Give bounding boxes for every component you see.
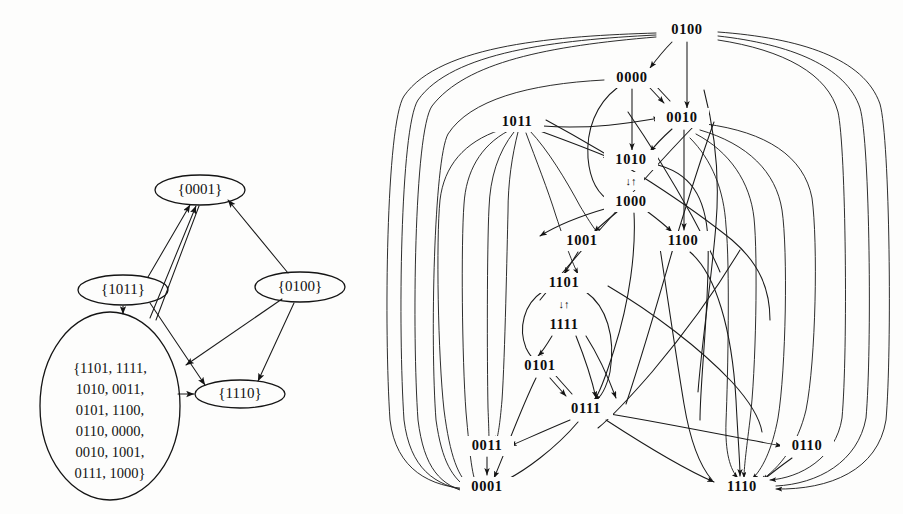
right-node-0100-label: 0100: [671, 21, 702, 37]
figure-canvas: {0001} {1011} {0100} {1110} {1101, 1111,…: [0, 0, 903, 514]
right-node-1010-label: 1010: [615, 151, 646, 167]
right-edge-0100-0001-outer1: [387, 33, 656, 489]
pair-marker-1010-1000: ↓↑: [618, 172, 644, 190]
right-edge-0000-0010-a: [650, 88, 664, 103]
right-node-0111[interactable]: 0111: [559, 399, 613, 419]
right-node-0011[interactable]: 0011: [460, 436, 514, 456]
right-edge-0100-0001-outer2: [401, 35, 656, 491]
right-node-0010-label: 0010: [666, 109, 697, 125]
right-edge-cross-6: [660, 248, 712, 480]
pair-marker-1101-1111: ↓↑: [551, 295, 577, 313]
right-edge-1011-0001-b: [462, 131, 508, 488]
right-edge-0010-1010: [650, 129, 672, 152]
right-diagram: 0100 0000 1011 0010 1010 1000: [0, 0, 903, 514]
right-node-0001-label: 0001: [471, 478, 502, 494]
right-node-0010[interactable]: 0010: [655, 108, 709, 128]
right-node-1101-label: 1101: [549, 274, 580, 290]
right-node-1000[interactable]: 1000: [604, 192, 658, 212]
right-node-0000-label: 0000: [616, 69, 647, 85]
right-node-1111-label: 1111: [550, 316, 579, 332]
right-node-0100[interactable]: 0100: [660, 20, 714, 40]
right-edge-1100-1110: [690, 252, 740, 476]
right-node-1001[interactable]: 1001: [555, 231, 609, 251]
right-edge-0101-0001: [494, 378, 536, 478]
right-edge-1101-0111: [586, 292, 612, 402]
right-node-1111[interactable]: 1111: [537, 315, 591, 335]
right-node-0011-label: 0011: [472, 437, 503, 453]
right-edge-1111-0111: [576, 336, 596, 398]
right-node-1110-label: 1110: [727, 478, 757, 494]
right-edge-cross-5: [598, 250, 740, 428]
right-node-0101[interactable]: 0101: [513, 356, 567, 376]
right-edge-0111-0011: [510, 420, 570, 446]
right-node-1000-label: 1000: [615, 193, 646, 209]
right-node-0110-label: 0110: [792, 437, 823, 453]
right-node-0001[interactable]: 0001: [460, 477, 514, 497]
right-edge-1011-0010: [543, 118, 660, 127]
right-edge-1011-1010: [540, 131, 610, 158]
right-edge-0000-0010-b: [656, 86, 670, 101]
right-edge-0010-1110-rail2: [700, 130, 785, 479]
right-edge-group-1011-fan: [438, 130, 602, 488]
right-edge-0100-1110-outerR1: [718, 32, 889, 489]
right-edge-0101-0111-a: [550, 378, 566, 396]
right-edge-0100-0001-outer3: [415, 37, 656, 493]
right-node-0111-label: 0111: [571, 400, 601, 416]
right-edge-1011-1101: [526, 133, 578, 274]
right-edge-0111-0110: [610, 414, 782, 446]
right-edge-1011-0001-a: [438, 130, 500, 488]
pair-marker-1010-1000-label: ↓↑: [626, 175, 637, 187]
right-edge-1011-1001: [530, 131, 602, 238]
right-edge-0000-1000: [588, 88, 617, 202]
right-edge-1011-0011-b: [496, 132, 518, 442]
right-edge-0101-0111-b: [556, 376, 572, 394]
right-node-1010[interactable]: 1010: [604, 150, 658, 170]
right-node-1101[interactable]: 1101: [537, 273, 591, 293]
right-node-0101-label: 0101: [524, 357, 555, 373]
right-edge-1000-1100: [648, 212, 672, 232]
pair-marker-1101-1111-label: ↓↑: [559, 298, 570, 310]
right-node-1110[interactable]: 1110: [715, 477, 769, 497]
right-edge-0100-1110-outerR2: [718, 36, 869, 486]
right-edge-1111-0101: [538, 336, 552, 356]
right-edge-0100-0000: [650, 42, 672, 68]
right-edge-0111-1110: [606, 420, 714, 482]
right-node-1011-label: 1011: [502, 113, 533, 129]
right-node-0110[interactable]: 0110: [780, 436, 834, 456]
right-edge-group-inner: [487, 42, 792, 482]
right-node-1100[interactable]: 1100: [656, 231, 710, 251]
right-node-1011[interactable]: 1011: [490, 112, 544, 132]
right-node-1001-label: 1001: [566, 232, 597, 248]
right-edge-rail4: [690, 138, 738, 478]
right-node-1100-label: 1100: [668, 232, 699, 248]
right-node-group: 0100 0000 1011 0010 1010 1000: [460, 20, 834, 497]
right-node-0000[interactable]: 0000: [605, 68, 659, 88]
